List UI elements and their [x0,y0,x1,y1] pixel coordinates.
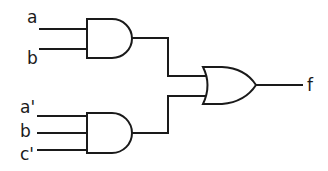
wire-and2-to-or [132,96,207,133]
label-b-top: b [27,48,38,68]
wire-and1-to-or [132,38,207,76]
label-c-prime: c' [20,144,34,164]
label-output-f: f [307,75,314,95]
label-b-bottom: b [20,121,31,141]
label-a: a [27,7,37,27]
or-gate [203,67,256,104]
and-gate-2 [87,113,132,153]
logic-circuit-diagram: a b a' b c' f [0,0,328,171]
label-a-prime: a' [20,97,35,117]
and-gate-1 [87,19,132,58]
